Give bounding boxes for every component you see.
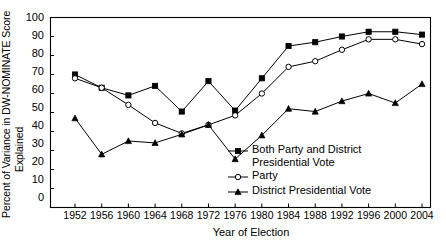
data-point-circle <box>393 37 398 42</box>
chart-container: Percent of Variance in DW-NOMINATE Score… <box>0 0 446 243</box>
x-tick-label: 1972 <box>194 210 222 221</box>
data-point-circle <box>366 37 371 42</box>
data-point-circle <box>313 59 318 64</box>
x-tick-label: 1968 <box>168 210 196 221</box>
legend-label-line2: Presidential Vote <box>252 156 335 169</box>
data-point-circle <box>72 76 77 81</box>
x-tick-label: 2000 <box>381 210 409 221</box>
x-tick-label: 1992 <box>328 210 356 221</box>
data-point-circle <box>419 41 424 46</box>
series-2 <box>72 37 424 136</box>
x-tick-label: 1980 <box>248 210 276 221</box>
data-point-square <box>366 29 371 34</box>
x-tick-label: 1988 <box>301 210 329 221</box>
x-tick-label: 1952 <box>61 210 89 221</box>
x-tick-label: 1976 <box>221 210 249 221</box>
data-point-square <box>126 93 131 98</box>
legend-label: District Presidential Vote <box>252 184 371 197</box>
data-point-square <box>152 83 157 88</box>
x-axis-title: Year of Election <box>28 226 446 238</box>
series-line <box>75 32 422 112</box>
data-point-square <box>286 43 291 48</box>
data-point-triangle <box>285 106 291 112</box>
data-point-square <box>313 40 318 45</box>
data-point-square <box>235 148 240 153</box>
series-1 <box>72 29 424 114</box>
data-point-square <box>179 109 184 114</box>
x-tick-label: 1996 <box>355 210 383 221</box>
data-point-square <box>206 79 211 84</box>
data-point-square <box>393 29 398 34</box>
x-tick-label: 1956 <box>88 210 116 221</box>
legend-marker-open-circle <box>226 171 250 183</box>
legend-label: Party <box>252 169 278 182</box>
plot-area <box>0 0 446 243</box>
x-tick-label: 1964 <box>141 210 169 221</box>
data-point-triangle <box>419 81 425 87</box>
x-tick-label: 1960 <box>114 210 142 221</box>
data-point-circle <box>126 102 131 107</box>
legend-marker-filled-triangle <box>226 186 250 198</box>
series-line <box>75 39 422 133</box>
legend-marker-filled-square <box>226 145 250 157</box>
data-point-circle <box>235 174 240 179</box>
data-point-square <box>339 34 344 39</box>
legend-label: Both Party and District <box>252 143 361 156</box>
x-tick-label: 2004 <box>408 210 436 221</box>
data-point-circle <box>99 85 104 90</box>
data-point-square <box>419 32 424 37</box>
data-point-circle <box>286 64 291 69</box>
data-point-triangle <box>366 90 372 96</box>
data-point-circle <box>259 91 264 96</box>
x-tick-label: 1984 <box>275 210 303 221</box>
data-point-circle <box>232 113 237 118</box>
data-point-circle <box>152 120 157 125</box>
data-point-square <box>259 76 264 81</box>
data-point-triangle <box>72 115 78 121</box>
data-point-circle <box>339 47 344 52</box>
